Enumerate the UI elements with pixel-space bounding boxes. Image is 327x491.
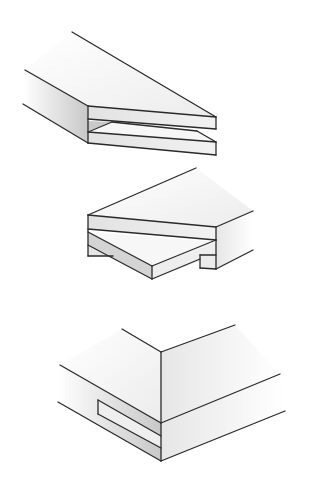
top-joint-drawing	[23, 32, 216, 155]
middle-joint-drawing	[88, 168, 253, 279]
bottom-joint-drawing	[58, 325, 285, 461]
joint-illustration-canvas	[0, 0, 327, 491]
